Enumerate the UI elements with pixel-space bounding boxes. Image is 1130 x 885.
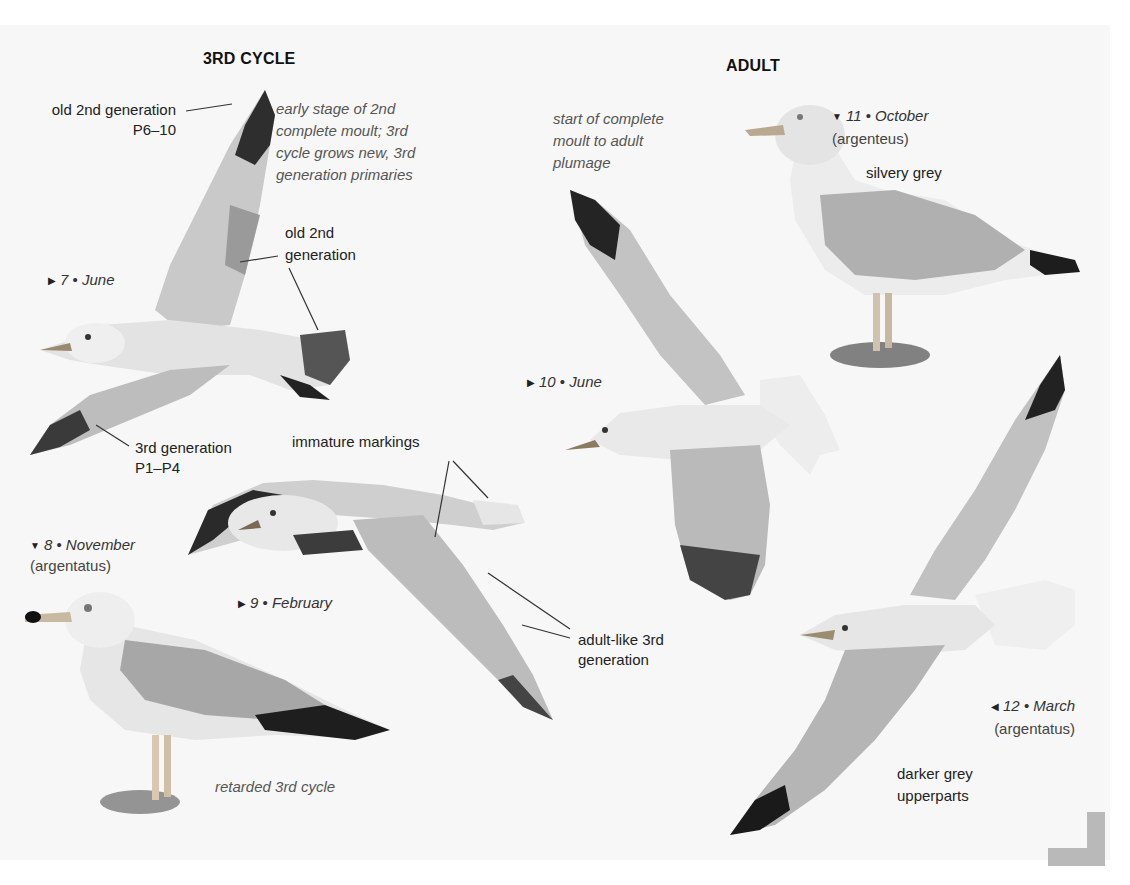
figure-caption-12: ◀12 • March (argentatus) [940,695,1075,740]
separator: • [560,373,565,390]
annotation-darker-grey-upperparts: darker grey upperparts [897,763,973,807]
figure-month: November [66,536,135,553]
figure-number: 11 [846,107,862,124]
annotation-line: generation [578,650,708,670]
annotation-line: adult-like 3rd [578,630,708,650]
figure-number: 9 [250,594,258,611]
annotation-adult-like-3rd-generation: adult-like 3rd generation [578,630,708,670]
note-line: plumage [553,152,713,174]
annotation-line: generation [285,244,405,266]
figure-subspecies: (argentatus) [940,718,1075,740]
separator: • [866,107,871,124]
pointer-down-icon: ▼ [832,111,842,122]
annotation-line: 3rd generation [135,438,275,458]
figure-number: 12 [1003,697,1020,714]
figure-month: June [82,271,115,288]
pointer-right-icon: ▶ [48,275,56,286]
note-early-stage-moult: early stage of 2nd complete moult; 3rd c… [276,98,476,186]
annotation-old-2nd-generation-p6-10: old 2nd generation P6–10 [30,100,176,140]
figure-month: March [1033,697,1075,714]
note-line: moult to adult [553,130,713,152]
figure-caption-8: ▼8 • November (argentatus) [30,535,135,576]
figure-subspecies: (argentatus) [30,556,135,576]
figure-subspecies: (argenteus) [832,128,928,150]
note-line: start of complete [553,108,713,130]
figure-month: February [272,594,332,611]
annotation-line: upperparts [897,785,973,807]
note-line: early stage of 2nd [276,98,476,120]
pointer-left-icon: ◀ [991,701,999,712]
separator: • [56,536,61,553]
note-start-of-complete-moult: start of complete moult to adult plumage [553,108,713,174]
caption-title: ▼11 • October [832,105,928,128]
annotation-line: P1–P4 [135,458,275,478]
annotation-line: P6–10 [30,120,176,140]
annotation-3rd-generation-p1-p4: 3rd generation P1–P4 [135,438,275,478]
pointer-down-icon: ▼ [30,540,40,551]
figure-caption-7: ▶7 • June [48,270,114,291]
annotation-line: old 2nd [285,222,405,244]
annotation-immature-markings: immature markings [292,432,420,452]
note-line: generation primaries [276,164,476,186]
annotation-line: old 2nd generation [30,100,176,120]
note-retarded-3rd-cycle: retarded 3rd cycle [215,777,335,797]
annotation-old-2nd-generation: old 2nd generation [285,222,405,266]
figure-month: October [875,107,928,124]
page-corner-marker [1048,848,1105,866]
figure-month: June [569,373,602,390]
figure-number: 8 [44,536,52,553]
annotation-silvery-grey: silvery grey [866,163,942,183]
note-line: complete moult; 3rd [276,120,476,142]
caption-title: ◀12 • March [940,695,1075,718]
pointer-right-icon: ▶ [527,377,535,388]
separator: • [263,594,268,611]
separator: • [1024,697,1029,714]
caption-title: ▼8 • November [30,535,135,556]
annotation-line: darker grey [897,763,973,785]
figure-number: 7 [60,271,68,288]
figure-caption-9: ▶9 • February [238,593,332,614]
figure-caption-11: ▼11 • October (argenteus) [832,105,928,150]
note-line: cycle grows new, 3rd [276,142,476,164]
figure-caption-10: ▶10 • June [527,372,602,393]
separator: • [73,271,78,288]
pointer-right-icon: ▶ [238,598,246,609]
figure-number: 10 [539,373,556,390]
